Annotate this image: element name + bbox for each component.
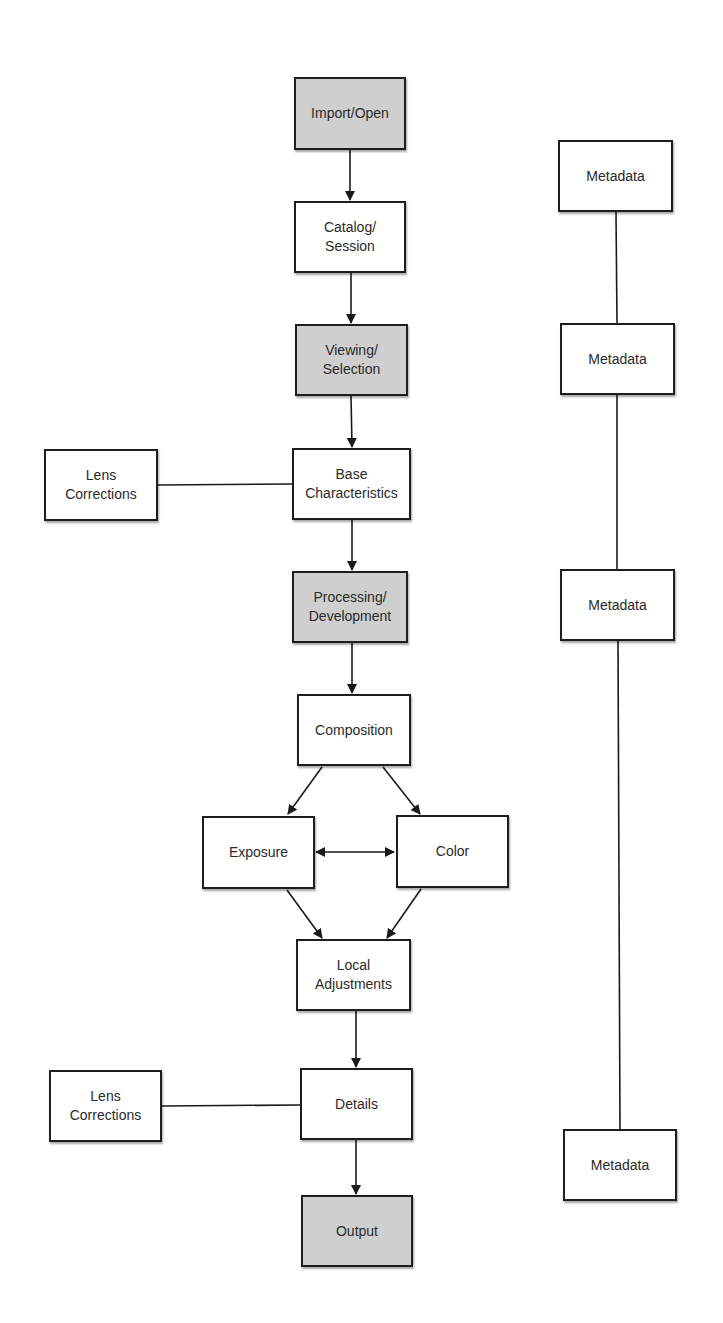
node-import-open: Import/Open — [294, 77, 406, 150]
node-viewing-selection: Viewing/ Selection — [295, 324, 408, 396]
node-label: Metadata — [588, 596, 646, 615]
node-composition: Composition — [297, 694, 411, 766]
node-metadata-4: Metadata — [563, 1129, 677, 1201]
workflow-diagram: Import/Open Catalog/ Session Viewing/ Se… — [0, 0, 723, 1323]
node-label: Exposure — [229, 843, 288, 862]
node-label: Metadata — [586, 167, 644, 186]
node-label: Catalog/ Session — [324, 218, 376, 256]
connector-metadata-3-to-metadata-4 — [618, 641, 620, 1129]
node-label: Processing/ Development — [309, 588, 392, 626]
node-output: Output — [301, 1195, 413, 1267]
node-processing-development: Processing/ Development — [292, 571, 408, 643]
connector-viewing-selection-to-base-characteristics — [351, 396, 352, 447]
node-metadata-1: Metadata — [558, 140, 673, 212]
node-label: Composition — [315, 721, 393, 740]
node-label: Color — [436, 842, 469, 861]
node-lens-corrections-upper: Lens Corrections — [44, 449, 158, 521]
node-catalog-session: Catalog/ Session — [294, 201, 406, 273]
node-label: Metadata — [588, 350, 646, 369]
connector-exposure-to-local-adjustments — [287, 890, 322, 938]
node-color: Color — [396, 815, 509, 888]
node-label: Lens Corrections — [65, 466, 137, 504]
node-label: Details — [335, 1095, 378, 1114]
node-local-adjustments: Local Adjustments — [296, 939, 411, 1011]
node-base-characteristics: Base Characteristics — [292, 448, 411, 520]
connector-metadata-1-to-metadata-2 — [616, 212, 617, 323]
connector-composition-to-exposure — [288, 767, 322, 814]
node-label: Metadata — [591, 1156, 649, 1175]
node-label: Import/Open — [311, 104, 389, 123]
connector-composition-to-color — [383, 767, 420, 814]
node-metadata-2: Metadata — [560, 323, 675, 395]
node-label: Base Characteristics — [305, 465, 398, 503]
node-label: Lens Corrections — [70, 1087, 142, 1125]
node-label: Viewing/ Selection — [323, 341, 381, 379]
node-lens-corrections-lower: Lens Corrections — [49, 1070, 162, 1142]
connector-color-to-local-adjustments — [387, 889, 421, 938]
connector-lens-corrections-1-to-base-characteristics — [158, 484, 292, 485]
node-exposure: Exposure — [202, 816, 315, 889]
node-label: Local Adjustments — [315, 956, 392, 994]
node-label: Output — [336, 1222, 378, 1241]
node-details: Details — [300, 1068, 413, 1140]
connector-lens-corrections-2-to-details — [162, 1105, 300, 1106]
edge-layer — [158, 150, 620, 1194]
node-metadata-3: Metadata — [560, 569, 675, 641]
